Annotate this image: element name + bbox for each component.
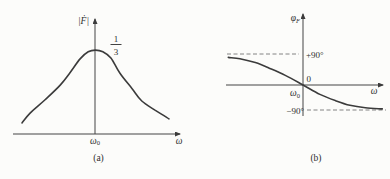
peak-fraction-numerator: 1 — [114, 34, 119, 44]
plot-b-x-axis-label: ω — [371, 86, 378, 96]
plot-b-caption: (b) — [310, 153, 321, 164]
peak-fraction-denominator: 3 — [114, 47, 119, 57]
plot-b-origin-tick: ω0 — [290, 88, 300, 99]
plot-a-y-axis-label: |Ḟ| — [78, 15, 89, 26]
zero-label: 0 — [307, 74, 312, 84]
subscript-F: F — [295, 17, 301, 24]
plot-b-curve — [228, 57, 382, 109]
peak-fraction-label: 1 3 — [111, 34, 122, 57]
subscript-0: 0 — [97, 139, 100, 146]
upper-asymptote-label: +90° — [306, 50, 324, 60]
plot-b-y-axis-label: φF — [291, 13, 301, 24]
plots-canvas: |Ḟ| 1 3 ω0 ω (a) φF +90° 0 ω0 −90° ω — [0, 0, 390, 179]
plot-b: φF +90° 0 ω0 −90° ω (b) — [226, 13, 386, 164]
lower-asymptote-label: −90° — [286, 106, 304, 116]
plot-a: |Ḟ| 1 3 ω0 ω (a) — [13, 15, 183, 164]
subscript-0: 0 — [297, 92, 300, 99]
plot-a-origin-tick: ω0 — [90, 136, 100, 147]
figure: |Ḟ| 1 3 ω0 ω (a) φF +90° 0 ω0 −90° ω — [0, 0, 390, 179]
plot-a-caption: (a) — [93, 153, 104, 164]
plot-a-x-axis-label: ω — [176, 136, 183, 146]
